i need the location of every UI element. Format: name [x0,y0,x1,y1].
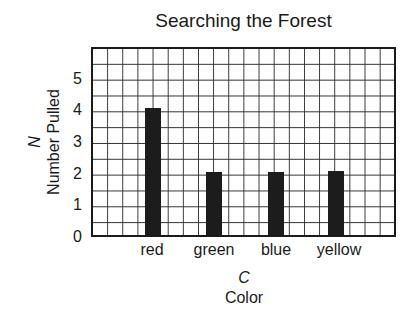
y-tick-0: 0 [68,229,82,245]
x-tick-blue: blue [241,241,311,259]
chart-title: Searching the Forest [91,10,396,32]
x-axis-variable: C [184,268,304,288]
y-tick-5: 5 [68,71,82,87]
bar-green [206,172,222,235]
bar-red [145,108,161,235]
x-tick-yellow: yellow [304,241,374,259]
y-tick-4: 4 [68,102,82,118]
y-tick-2: 2 [68,166,82,182]
x-axis-title: Color [225,289,263,306]
bar-blue [268,172,284,235]
x-tick-green: green [179,241,249,259]
x-tick-red: red [117,241,187,259]
x-axis-label: C Color [184,268,304,308]
bar-yellow [328,171,344,235]
y-axis-variable: N [25,89,44,195]
y-axis-label: N Number Pulled [25,89,63,195]
y-axis-title: Number Pulled [45,89,62,195]
plot-area [91,47,396,237]
y-tick-1: 1 [68,197,82,213]
y-tick-3: 3 [68,134,82,150]
